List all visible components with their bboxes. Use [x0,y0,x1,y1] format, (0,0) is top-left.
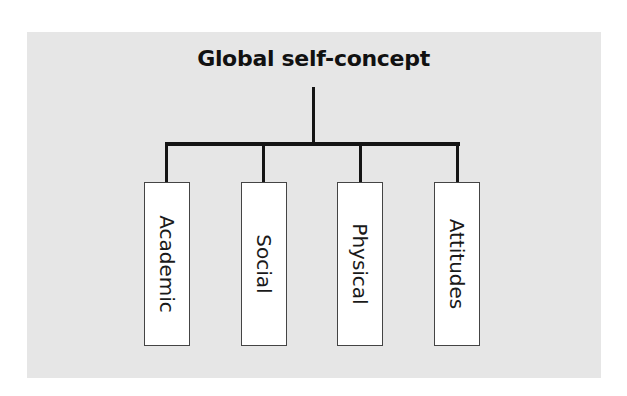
diagram-panel [27,32,601,378]
root-node-title: Global self-concept [0,46,627,71]
root-stem-line [312,87,315,145]
connector-academic [165,142,168,182]
connector-attitudes [456,142,459,182]
node-label: Social [252,234,276,293]
connector-social [262,142,265,182]
node-label: Academic [155,215,179,313]
node-academic: Academic [144,182,190,346]
node-social: Social [241,182,287,346]
node-physical: Physical [337,182,383,346]
node-label: Attitudes [445,219,469,310]
connector-physical [359,142,362,182]
branch-horizontal-line [165,142,460,146]
node-label: Physical [348,223,372,304]
node-attitudes: Attitudes [434,182,480,346]
